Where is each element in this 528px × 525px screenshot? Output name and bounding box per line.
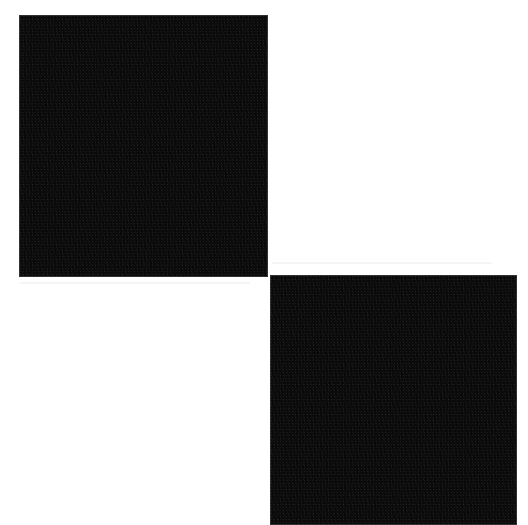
ghost-mark: [20, 282, 250, 284]
square-top-left: [19, 15, 268, 277]
ghost-mark: [272, 262, 492, 264]
square-bottom-right: [270, 275, 517, 525]
